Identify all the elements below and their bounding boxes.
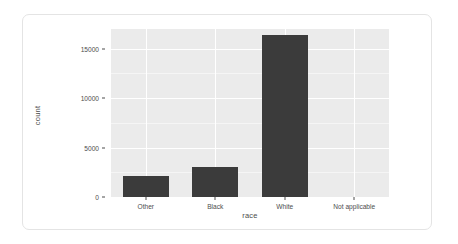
x-tick-label: White [276, 203, 293, 210]
bar-other[interactable] [123, 176, 169, 197]
plot-panel [111, 29, 389, 197]
y-axis-tick-labels: 050001000015000 [63, 29, 105, 197]
bar-chart: count 050001000015000 OtherBlackWhiteNot… [23, 15, 433, 231]
gridline-minor [111, 172, 389, 173]
x-tick-label: Not applicable [333, 203, 375, 210]
y-tick-mark [102, 48, 105, 49]
bar-black[interactable] [192, 167, 238, 197]
y-axis-title: count [33, 86, 42, 146]
gridline-minor [111, 73, 389, 74]
x-tick-mark [284, 197, 285, 200]
x-tick-mark [215, 197, 216, 200]
y-tick-label: 0 [95, 194, 99, 201]
gridline-minor [111, 123, 389, 124]
gridline-major [111, 148, 389, 149]
y-tick-mark [102, 197, 105, 198]
y-tick-mark [102, 147, 105, 148]
figure-card: count 050001000015000 OtherBlackWhiteNot… [22, 14, 432, 230]
x-tick-mark [145, 197, 146, 200]
x-axis-title: race [111, 211, 389, 220]
gridline-vertical [354, 29, 355, 197]
x-tick-mark [354, 197, 355, 200]
x-tick-label: Other [138, 203, 155, 210]
gridline-vertical [146, 29, 147, 197]
gridline-major [111, 49, 389, 50]
y-tick-label: 10000 [81, 95, 99, 102]
bar-white[interactable] [262, 35, 308, 197]
x-tick-label: Black [207, 203, 223, 210]
y-tick-label: 15000 [81, 45, 99, 52]
y-tick-label: 5000 [84, 144, 99, 151]
gridline-major [111, 98, 389, 99]
y-tick-mark [102, 98, 105, 99]
